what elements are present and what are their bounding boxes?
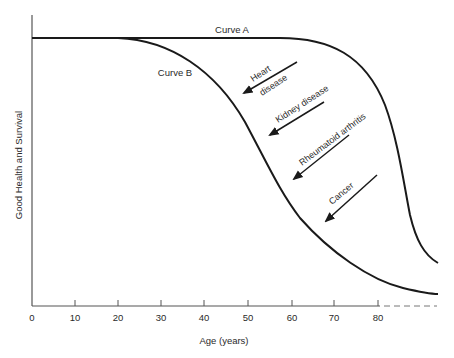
tick-label-40: 40: [199, 312, 210, 323]
tick-label-70: 70: [329, 312, 340, 323]
x-tick-labels: 0 10 20 30 40 50 60 70 80: [29, 312, 383, 323]
y-axis-title: Good Health and Survival: [13, 111, 24, 219]
cancer-label: Cancer: [327, 180, 356, 206]
x-ticks: [75, 300, 378, 306]
curve-b-label: Curve B: [158, 67, 192, 78]
curve-a-label: Curve A: [215, 24, 249, 35]
rheumatoid-arthritis-label: Rheumatoid arthritis: [297, 111, 368, 168]
curve-b: [32, 38, 438, 294]
x-axis-title: Age (years): [199, 335, 248, 346]
tick-label-30: 30: [156, 312, 167, 323]
curve-a: [32, 38, 438, 263]
tick-label-50: 50: [243, 312, 254, 323]
tick-label-60: 60: [287, 312, 298, 323]
tick-label-0: 0: [29, 312, 34, 323]
tick-label-10: 10: [70, 312, 81, 323]
chart-canvas: 0 10 20 30 40 50 60 70 80 Age (years) Go…: [0, 0, 454, 358]
tick-label-20: 20: [113, 312, 124, 323]
tick-label-80: 80: [373, 312, 384, 323]
